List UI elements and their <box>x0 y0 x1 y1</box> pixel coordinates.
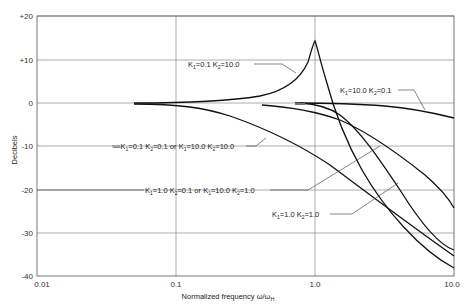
x-tick: 0.1 <box>170 280 182 289</box>
curve-k1-0.1-k2-10 <box>134 41 454 268</box>
y-tick: -10 <box>21 142 33 151</box>
svg-text:—K1=0.1 K2=0.1 or K1=10.0: —K1=0.1 K2=0.1 or K1=10.0 K2=10.0 <box>113 142 234 152</box>
y-tick: +20 <box>19 12 33 21</box>
y-tick: -40 <box>21 272 33 281</box>
svg-text:K1=0.1 K2=10.0: K1=0.1 K2=10.0 <box>188 60 239 70</box>
annotation-k1-0.1-k2-0.1: —K1=0.1 K2=0.1 or K1=10.0 K2=10.0 <box>112 138 266 152</box>
grid <box>37 16 454 276</box>
svg-text:K1=1.0 K2=1.0: K1=1.0 K2=1.0 <box>272 210 319 220</box>
y-tick: -30 <box>21 229 33 238</box>
annotation-k1-0.1-k2-10: K1=0.1 K2=10.0 <box>188 60 296 73</box>
x-tick: 0.01 <box>34 280 50 289</box>
curve-k1-1-k2-1 <box>300 103 454 250</box>
y-tick: -20 <box>21 186 33 195</box>
y-axis-ticks: +20 +10 0 -10 -20 -30 -40 <box>19 12 33 281</box>
curves <box>134 41 454 268</box>
annotation-k1-1-k2-0.1: K1=1.0 K2=0.1 or K1=10.0 K2=1.0 <box>37 146 380 196</box>
x-axis-ticks: 0.01 0.1 1.0 10.0 <box>34 280 460 289</box>
curve-k1-1-k2-0.1 <box>262 105 454 208</box>
x-tick: 1.0 <box>309 280 321 289</box>
y-tick: 0 <box>29 99 34 108</box>
frequency-response-chart: +20 +10 0 -10 -20 -30 -40 0.01 0.1 1.0 1… <box>0 0 469 306</box>
x-tick: 10.0 <box>444 280 460 289</box>
svg-text:K1=1.0 K2=0.1 or K1=10.0 K: K1=1.0 K2=0.1 or K1=10.0 K2=1.0 <box>145 186 255 196</box>
x-axis-label: Normalized frequency ω/ωH <box>182 292 275 302</box>
svg-text:K1=10.0 K2=0.1: K1=10.0 K2=0.1 <box>340 86 391 96</box>
y-tick: +10 <box>19 56 33 65</box>
y-axis-label: Decibels <box>10 135 19 164</box>
